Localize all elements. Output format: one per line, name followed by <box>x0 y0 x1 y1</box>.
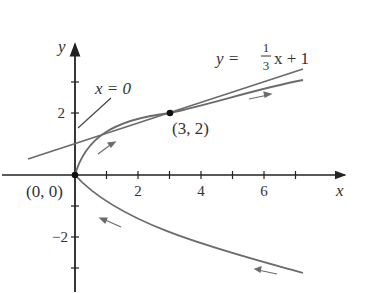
parabola-curve <box>75 80 303 273</box>
point-origin <box>72 172 79 179</box>
tangent-eq-rhs: x + 1 <box>274 49 309 68</box>
vertical-tangent-text: x = 0 <box>94 79 132 98</box>
y-tick-label-neg2: −2 <box>52 229 68 245</box>
tangent-eq-lhs: y = <box>214 49 239 68</box>
tangent-frac-den: 3 <box>263 58 270 73</box>
y-tick-label-2: 2 <box>58 105 66 121</box>
point-3-2-label: (3, 2) <box>172 119 209 138</box>
y-axis-label: y <box>56 37 66 56</box>
origin-label: (0, 0) <box>26 182 63 201</box>
point-3-2 <box>167 110 174 117</box>
x-tick-label-2: 2 <box>134 183 142 199</box>
tangent-frac-num: 1 <box>263 40 270 55</box>
x-tick-label-6: 6 <box>260 183 268 199</box>
tangent-equation: y = 1 3 x + 1 <box>214 40 309 73</box>
diagram-canvas: 2 4 6 2 −2 y x x = 0 y = 1 3 x + 1 (3, 2… <box>0 0 373 293</box>
vertical-tangent-label: x = 0 <box>94 79 132 98</box>
x-tick-label-4: 4 <box>197 183 205 199</box>
x-axis-label: x <box>335 181 344 200</box>
vertical-tangent-pointer <box>78 98 111 128</box>
